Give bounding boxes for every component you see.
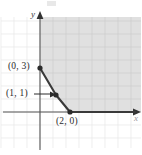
point-label-0-3: (0, 3) <box>8 61 30 71</box>
coordinate-plane-figure: (0, 3) (1, 1) (2, 0) y x <box>0 0 142 155</box>
shaded-region <box>40 17 141 112</box>
y-axis-label: y <box>31 9 35 19</box>
vertex-point-2-0 <box>67 109 72 114</box>
y-axis-arrowhead <box>37 11 44 19</box>
vertex-point-0-3 <box>37 65 42 70</box>
x-axis-label: x <box>134 113 138 123</box>
point-label-1-1: (1, 1) <box>6 88 28 98</box>
graph-canvas <box>0 0 142 155</box>
point-label-2-0: (2, 0) <box>56 116 78 126</box>
